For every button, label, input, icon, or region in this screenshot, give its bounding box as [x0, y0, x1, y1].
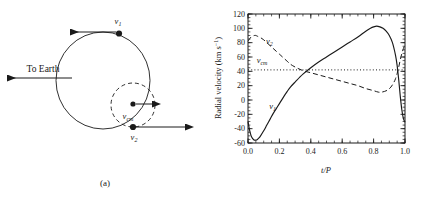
- y-tick-label: -20: [234, 110, 245, 119]
- radial-velocity-chart-svg: 0.00.20.40.60.81.0 -60-40-20020406080100…: [210, 0, 421, 203]
- y-tick-label: -60: [234, 139, 245, 148]
- star1-orbit-ellipse: [56, 32, 150, 129]
- x-tick-label: 1.0: [400, 147, 410, 156]
- annotation-vcm: vcm: [257, 55, 268, 66]
- to-earth-label: To Earth: [27, 64, 60, 74]
- x-tick-label: 0.0: [243, 147, 253, 156]
- y-tick-label: 120: [233, 10, 245, 19]
- panel-b-radial-velocity-chart: 0.00.20.40.60.81.0 -60-40-20020406080100…: [210, 0, 421, 203]
- y-axis-ticks: [248, 14, 405, 143]
- y-tick-label: 80: [237, 38, 245, 47]
- y-tick-label: 20: [237, 81, 245, 90]
- x-tick-label: 0.4: [306, 147, 316, 156]
- vcm-label: vcm: [123, 111, 134, 122]
- y-tick-label: 60: [237, 53, 245, 62]
- y-axis-title: Radial velocity (km s−1): [213, 37, 223, 119]
- x-tick-label: 0.8: [369, 147, 379, 156]
- annotation-v2: v2: [266, 36, 273, 47]
- plot-frame: [248, 14, 405, 143]
- x-axis-ticks: [248, 14, 405, 143]
- x-axis-title: t/P: [321, 165, 331, 175]
- y-axis-tick-labels: -60-40-20020406080100120: [233, 10, 245, 148]
- x-tick-label: 0.6: [337, 147, 347, 156]
- curve-annotations: v1v2vcm: [257, 36, 276, 112]
- y-tick-label: 0: [241, 96, 245, 105]
- x-tick-label: 0.2: [274, 147, 284, 156]
- v1-label: v1: [115, 16, 122, 27]
- x-axis-minor-ticks: [248, 14, 405, 143]
- orbit-diagram-svg: vcm v1 v2 To Earth: [0, 0, 210, 203]
- y-axis-minor-ticks: [248, 14, 405, 143]
- radial-velocity-figure: vcm v1 v2 To Earth (a) 0.00.20.40.6: [0, 0, 421, 203]
- y-tick-label: 40: [237, 67, 245, 76]
- star1-point: [116, 30, 122, 36]
- center-of-mass-dot: [130, 101, 135, 106]
- x-axis-tick-labels: 0.00.20.40.60.81.0: [243, 147, 410, 156]
- y-tick-label: -40: [234, 124, 245, 133]
- panel-a-caption: (a): [75, 178, 135, 188]
- annotation-v1: v1: [269, 101, 276, 112]
- v2-label: v2: [131, 132, 138, 143]
- y-tick-label: 100: [233, 24, 245, 33]
- star2-point: [130, 124, 136, 130]
- panel-a-orbit-diagram: vcm v1 v2 To Earth (a): [0, 0, 210, 203]
